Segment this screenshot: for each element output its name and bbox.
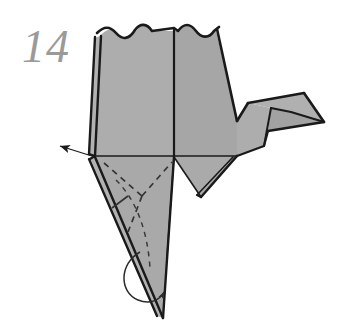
origami-figure: 14 bbox=[0, 0, 339, 327]
origami-diagram-page: 14 bbox=[0, 0, 339, 327]
panel-left-wing bbox=[95, 26, 174, 156]
step-number: 14 bbox=[22, 21, 70, 72]
panel-right-wing bbox=[174, 25, 237, 156]
